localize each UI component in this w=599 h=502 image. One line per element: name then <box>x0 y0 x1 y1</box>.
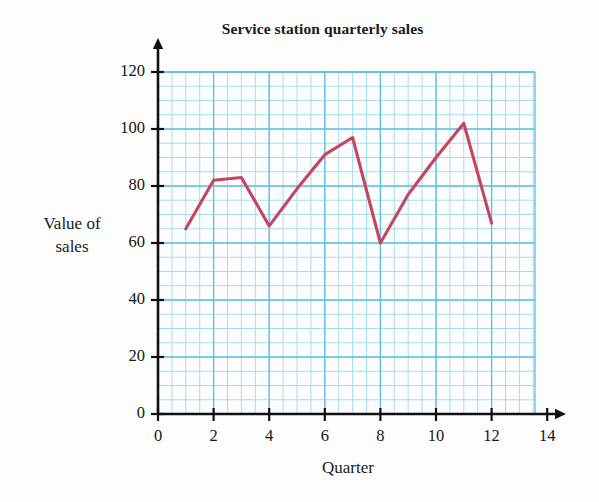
y-tick-label: 120 <box>101 61 145 81</box>
chart-figure: Service station quarterly sales Value of… <box>0 0 599 502</box>
y-tick-label: 80 <box>101 175 145 195</box>
y-tick-label: 0 <box>101 403 145 423</box>
y-tick-label: 40 <box>101 289 145 309</box>
y-tick-label: 20 <box>101 346 145 366</box>
x-tick-label: 0 <box>141 426 175 446</box>
x-tick-label: 10 <box>419 426 453 446</box>
x-tick-label: 8 <box>363 426 397 446</box>
plot-area <box>0 0 599 502</box>
x-tick-label: 14 <box>530 426 564 446</box>
x-tick-label: 4 <box>252 426 286 446</box>
y-tick-label: 100 <box>101 118 145 138</box>
x-tick-label: 2 <box>197 426 231 446</box>
y-tick-label: 60 <box>101 232 145 252</box>
x-tick-label: 6 <box>308 426 342 446</box>
x-tick-label: 12 <box>475 426 509 446</box>
